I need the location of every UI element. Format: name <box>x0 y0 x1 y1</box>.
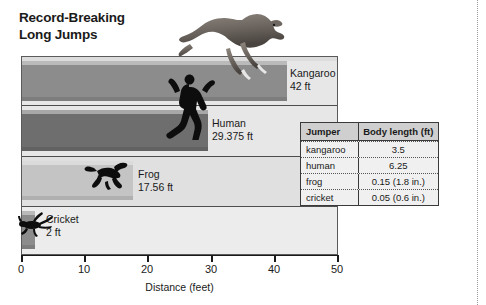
x-axis-tick-30 <box>211 255 213 262</box>
x-axis-tick-20 <box>147 255 149 262</box>
x-axis-label-0: 0 <box>6 263 36 275</box>
x-axis-label-30: 30 <box>196 263 226 275</box>
x-axis-tick-0 <box>21 255 23 262</box>
bar-label-kangaroo-value: 42 ft <box>290 80 336 93</box>
x-axis-label-40: 40 <box>259 263 289 275</box>
x-axis-title: Distance (feet) <box>21 281 338 293</box>
cricket-illustration <box>17 211 55 237</box>
bar-kangaroo-shadow <box>22 97 287 101</box>
bar-cricket-shadow <box>22 245 35 249</box>
table-header-jumper: Jumper <box>301 123 358 140</box>
frog-illustration <box>84 160 130 190</box>
bar-frog-shadow <box>22 196 133 200</box>
x-axis-tick-40 <box>274 255 276 262</box>
table-cell-length-frog: 0.15 (1.8 in.) <box>358 174 438 189</box>
bar-label-kangaroo-name: Kangaroo <box>290 67 336 80</box>
table-row: cricket 0.05 (0.6 in.) <box>301 189 438 205</box>
human-illustration <box>166 74 218 140</box>
page-cut-line <box>477 0 478 305</box>
table-cell-jumper-kangaroo: kangaroo <box>301 142 358 157</box>
table-header-body-length: Body length (ft) <box>358 123 438 140</box>
bar-label-frog: Frog 17.56 ft <box>138 168 173 193</box>
bar-human-shadow <box>22 147 208 151</box>
bar-label-kangaroo: Kangaroo 42 ft <box>290 67 336 92</box>
x-axis-tick-50 <box>337 255 339 262</box>
table-cell-length-human: 6.25 <box>358 158 438 173</box>
table-row: kangaroo 3.5 <box>301 141 438 157</box>
table-row: frog 0.15 (1.8 in.) <box>301 173 438 189</box>
table-header-row: Jumper Body length (ft) <box>301 123 438 141</box>
x-axis-line <box>21 255 338 256</box>
bar-label-human-name: Human <box>212 117 253 130</box>
x-axis-label-50: 50 <box>322 263 352 275</box>
body-length-table: Jumper Body length (ft) kangaroo 3.5 hum… <box>300 122 439 206</box>
table-row: human 6.25 <box>301 157 438 173</box>
bar-label-frog-name: Frog <box>138 168 173 181</box>
table-cell-length-cricket: 0.05 (0.6 in.) <box>358 190 438 205</box>
x-axis-label-20: 20 <box>132 263 162 275</box>
table-cell-jumper-human: human <box>301 158 358 173</box>
bar-label-frog-value: 17.56 ft <box>138 181 173 194</box>
x-axis-tick-10 <box>84 255 86 262</box>
table-cell-jumper-frog: frog <box>301 174 358 189</box>
table-cell-jumper-cricket: cricket <box>301 190 358 205</box>
bar-label-human: Human 29.375 ft <box>212 117 253 142</box>
bar-label-human-value: 29.375 ft <box>212 130 253 143</box>
x-axis-label-10: 10 <box>69 263 99 275</box>
kangaroo-illustration <box>178 0 286 82</box>
table-cell-length-kangaroo: 3.5 <box>358 142 438 157</box>
